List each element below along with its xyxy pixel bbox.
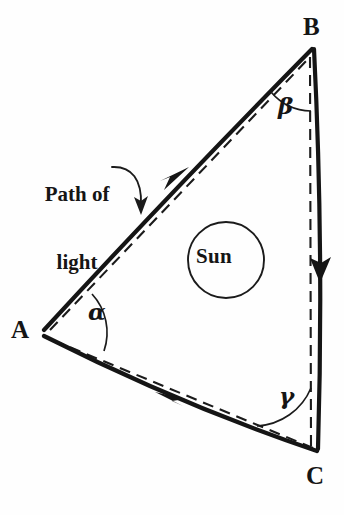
angle-label-gamma: γ bbox=[279, 384, 294, 409]
path-of-light-line2: light bbox=[18, 251, 136, 274]
vertex-label-b: B bbox=[303, 13, 320, 40]
path-of-light-line1: Path of bbox=[18, 183, 136, 206]
dashed-chord-bc bbox=[310, 57, 311, 446]
light-path-segment-bc bbox=[314, 49, 320, 449]
direction-arrowheads bbox=[155, 167, 331, 406]
path-of-light-caption: Path of light bbox=[18, 138, 136, 319]
angle-label-beta: β bbox=[278, 94, 293, 119]
sun-label: Sun bbox=[196, 245, 232, 268]
dashed-chord-ca bbox=[50, 339, 313, 448]
vertex-label-a: A bbox=[11, 316, 29, 343]
vertex-label-c: C bbox=[306, 462, 324, 489]
light-path-diagram: A B C α β γ Path of light Sun bbox=[0, 0, 344, 515]
